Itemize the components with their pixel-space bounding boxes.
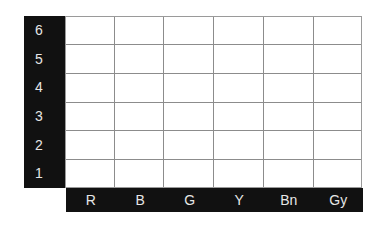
row-label-4: 4	[24, 73, 54, 102]
column-label-g: G	[165, 188, 215, 212]
grid-hline	[66, 159, 361, 160]
row-label-1: 1	[24, 159, 54, 188]
column-label-bn: Bn	[264, 188, 314, 212]
grid-hline	[66, 44, 361, 45]
row-label-2: 2	[24, 131, 54, 160]
column-label-gy: Gy	[314, 188, 364, 212]
row-label-6: 6	[24, 16, 54, 45]
grid-area	[65, 16, 362, 188]
column-header-row: R B G Y Bn Gy	[66, 188, 363, 212]
column-label-y: Y	[215, 188, 265, 212]
row-label-3: 3	[24, 102, 54, 131]
column-label-b: B	[116, 188, 166, 212]
grid-hline	[66, 73, 361, 74]
grid-hline	[66, 102, 361, 103]
row-header-column: 6 5 4 3 2 1	[24, 16, 65, 188]
column-label-r: R	[66, 188, 116, 212]
grid-hline	[66, 130, 361, 131]
row-label-5: 5	[24, 45, 54, 74]
